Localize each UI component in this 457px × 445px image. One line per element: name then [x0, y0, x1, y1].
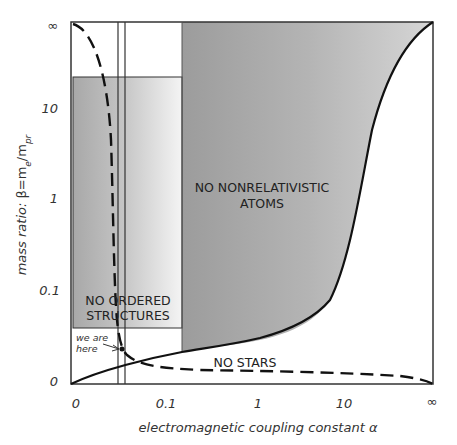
x-tick-1: 1	[254, 396, 262, 411]
label-no-stars: NO STARS	[214, 355, 277, 370]
annotation-here: here	[76, 343, 98, 354]
y-axis-label: mass ratio: β=me/mpr	[14, 133, 33, 275]
label-no-ordered-1: NO ORDERED	[85, 293, 170, 308]
x-tick-0: 0	[72, 396, 80, 411]
chart: NO NONRELATIVISTIC ATOMS NO ORDERED STRU…	[0, 0, 457, 445]
y-tick-10: 10	[41, 101, 58, 116]
x-tick-10: 10	[336, 396, 353, 411]
we-are-here-marker	[120, 347, 125, 352]
region-no-ordered-structures	[73, 77, 182, 328]
we-are-here-arrow	[103, 344, 119, 349]
x-tick-0.1: 0.1	[156, 396, 177, 411]
y-tick-inf: ∞	[47, 18, 58, 33]
x-axis-label: electromagnetic coupling constant α	[139, 420, 378, 435]
label-no-atoms-2: ATOMS	[240, 196, 284, 211]
label-no-ordered-2: STRUCTURES	[86, 308, 170, 323]
annotation-we-are: we are	[76, 332, 108, 343]
y-tick-0.1: 0.1	[39, 283, 60, 298]
x-tick-inf: ∞	[427, 394, 438, 409]
y-tick-1: 1	[50, 191, 58, 206]
label-no-atoms-1: NO NONRELATIVISTIC	[195, 180, 330, 195]
y-tick-0: 0	[50, 374, 58, 389]
